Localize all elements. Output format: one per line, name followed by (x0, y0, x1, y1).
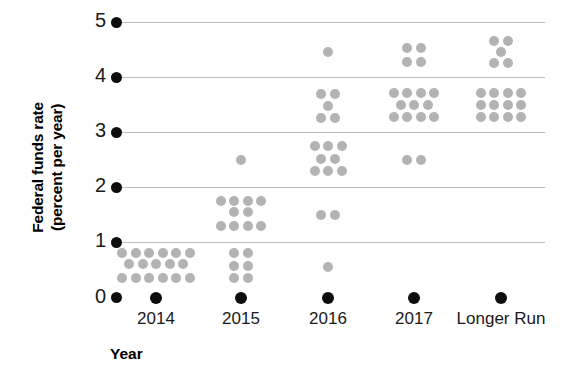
projection-dot (229, 248, 239, 258)
x-axis-tick-marker (495, 292, 507, 304)
projection-dot (158, 248, 168, 258)
x-axis-tick-marker (235, 292, 247, 304)
projection-dot (310, 166, 320, 176)
y-axis-tick-marker (111, 237, 122, 248)
y-axis-tick-label: 0 (84, 285, 106, 308)
projection-dot (396, 100, 406, 110)
y-axis-tick-label: 1 (84, 229, 106, 252)
projection-dot (416, 43, 426, 53)
projection-dot (330, 154, 340, 164)
projection-dot (243, 248, 253, 258)
projection-dot (516, 100, 526, 110)
projection-dot (330, 210, 340, 220)
projection-dot (138, 259, 148, 269)
projection-dot (316, 154, 326, 164)
gridline (111, 132, 545, 133)
projection-dot (236, 155, 246, 165)
x-axis-title: Year (110, 345, 143, 363)
projection-dot (216, 221, 226, 231)
projection-dot (503, 88, 513, 98)
projection-dot (476, 88, 486, 98)
y-axis-tick-label: 5 (84, 9, 106, 32)
projection-dot (423, 100, 433, 110)
projection-dot (489, 36, 499, 46)
projection-dot (229, 221, 239, 231)
projection-dot (409, 100, 419, 110)
plot-area: 0123452014201520162017Longer Run (0, 0, 564, 382)
projection-dot (402, 43, 412, 53)
projection-dot (117, 248, 127, 258)
projection-dot (337, 141, 347, 151)
x-axis-tick-marker (150, 292, 162, 304)
projection-dot (503, 100, 513, 110)
projection-dot (185, 248, 195, 258)
projection-dot (337, 166, 347, 176)
projection-dot (243, 261, 253, 271)
projection-dot (131, 273, 141, 283)
projection-dot (489, 58, 499, 68)
projection-dot (243, 196, 253, 206)
projection-dot (389, 112, 399, 122)
projection-dot (323, 166, 333, 176)
x-axis-tick-label: 2016 (309, 309, 347, 329)
projection-dot (323, 141, 333, 151)
projection-dot (402, 155, 412, 165)
projection-dot (316, 210, 326, 220)
projection-dot (256, 221, 266, 231)
projection-dot (158, 273, 168, 283)
projection-dot (416, 88, 426, 98)
projection-dot (229, 207, 239, 217)
projection-dot (489, 100, 499, 110)
gridline (111, 187, 545, 188)
projection-dot (243, 207, 253, 217)
projection-dot (389, 88, 399, 98)
projection-dot (165, 259, 175, 269)
projection-dot (243, 221, 253, 231)
projection-dot (178, 259, 188, 269)
y-axis-tick-label: 3 (84, 119, 106, 142)
projection-dot (216, 196, 226, 206)
projection-dot (476, 100, 486, 110)
projection-dot (310, 141, 320, 151)
x-axis-tick-label: Longer Run (457, 309, 546, 329)
projection-dot (323, 101, 333, 111)
x-axis-tick-marker (322, 292, 334, 304)
projection-dot (117, 273, 127, 283)
projection-dot (124, 259, 134, 269)
projection-dot (429, 88, 439, 98)
projection-dot (229, 196, 239, 206)
projection-dot (516, 88, 526, 98)
projection-dot (144, 248, 154, 258)
projection-dot (323, 262, 333, 272)
projection-dot (131, 248, 141, 258)
y-axis-tick-marker (111, 72, 122, 83)
projection-dot (489, 88, 499, 98)
gridline (111, 77, 545, 78)
projection-dot (323, 47, 333, 57)
projection-dot (516, 112, 526, 122)
y-axis-tick-label: 4 (84, 64, 106, 87)
y-axis-tick-marker (111, 182, 122, 193)
projection-dot (402, 88, 412, 98)
projection-dot (402, 112, 412, 122)
y-axis-tick-marker (111, 127, 122, 138)
projection-dot (229, 273, 239, 283)
projection-dot (489, 112, 499, 122)
projection-dot (229, 261, 239, 271)
projection-dot (316, 113, 326, 123)
projection-dot (503, 58, 513, 68)
projection-dot (256, 196, 266, 206)
y-axis-tick-marker (111, 17, 122, 28)
gridline (111, 22, 545, 23)
projection-dot (503, 36, 513, 46)
projection-dot (330, 113, 340, 123)
projection-dot (330, 89, 340, 99)
projection-dot (402, 57, 412, 67)
projection-dot (496, 47, 506, 57)
gridline (111, 242, 545, 243)
projection-dot (171, 248, 181, 258)
projection-dot (151, 259, 161, 269)
projection-dot (185, 273, 195, 283)
projection-dot (503, 112, 513, 122)
projection-dot (416, 155, 426, 165)
